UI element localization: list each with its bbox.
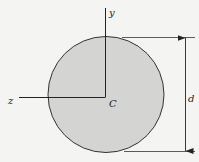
diameter-label: d [188, 93, 194, 104]
z-axis-label: z [7, 95, 14, 106]
y-axis-label: y [108, 7, 115, 18]
cross-section-diagram: y z C d [0, 0, 199, 162]
centroid-label: C [109, 98, 117, 109]
